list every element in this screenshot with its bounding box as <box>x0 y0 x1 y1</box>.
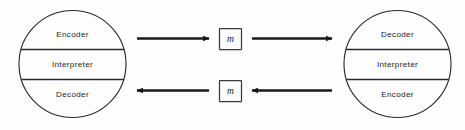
diagram-canvas: Encoder Interpreter Decoder Decoder Inte… <box>0 0 465 130</box>
left-band-label-encoder: Encoder <box>56 30 89 39</box>
right-band-label-decoder: Decoder <box>381 30 414 39</box>
left-band-label-decoder: Decoder <box>56 90 89 99</box>
message-box-top[interactable]: m <box>220 29 242 50</box>
message-box-bottom-label: m <box>227 86 234 96</box>
left-circle-group[interactable]: Encoder Interpreter Decoder <box>17 11 128 118</box>
right-band-label-encoder: Encoder <box>381 90 414 99</box>
left-band-label-interpreter: Interpreter <box>52 60 93 69</box>
right-circle-group[interactable]: Decoder Interpreter Encoder <box>342 11 453 118</box>
right-band-label-interpreter: Interpreter <box>377 60 418 69</box>
message-box-top-label: m <box>227 34 234 44</box>
diagram-svg: Encoder Interpreter Decoder Decoder Inte… <box>0 0 465 130</box>
message-box-bottom[interactable]: m <box>220 81 242 102</box>
